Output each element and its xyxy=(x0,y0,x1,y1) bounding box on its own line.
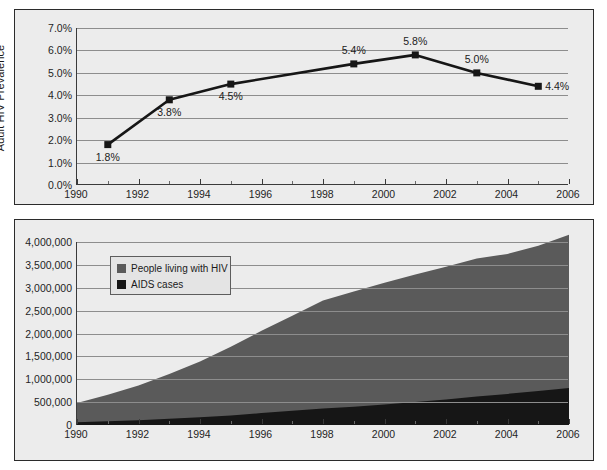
gridline xyxy=(77,356,568,357)
y-axis-labels-burden: 0500,0001,000,0001,500,0002,000,0002,500… xyxy=(6,242,72,425)
legend-swatch-people-living-with-hiv xyxy=(117,264,126,273)
x-tick-label: 1990 xyxy=(64,429,87,440)
legend-item-people-living-with-hiv: People living with HIV xyxy=(117,261,225,276)
legend-label-people-living-with-hiv: People living with HIV xyxy=(131,263,228,274)
line-series-prevalence xyxy=(77,28,569,185)
x-tick xyxy=(569,179,570,184)
x-tick xyxy=(446,419,447,424)
gridline xyxy=(77,379,568,380)
gridline xyxy=(77,402,568,403)
x-tick-label: 2004 xyxy=(495,429,518,440)
figure-container: Adult HIV Prevalence 0.0%1.0%2.0%3.0%4.0… xyxy=(0,0,607,470)
x-tick-label: 1992 xyxy=(126,189,149,200)
y-tick-label: 3,000,000 xyxy=(25,283,72,293)
x-tick xyxy=(323,419,324,424)
x-tick xyxy=(569,419,570,424)
y-tick-label: 2,000,000 xyxy=(25,329,72,339)
y-tick-label: 2.0% xyxy=(48,135,72,145)
gridline xyxy=(77,334,568,335)
y-tick-label: 3.0% xyxy=(48,113,72,123)
x-tick-minor xyxy=(231,421,232,424)
x-tick-label: 1990 xyxy=(64,189,87,200)
x-tick-label: 2000 xyxy=(372,189,395,200)
x-tick-label: 2002 xyxy=(433,189,456,200)
x-tick-label: 1996 xyxy=(249,429,272,440)
legend-swatch-aids-cases xyxy=(117,280,126,289)
x-tick xyxy=(139,419,140,424)
x-tick-minor xyxy=(108,421,109,424)
data-point-label: 4.4% xyxy=(545,81,569,92)
x-tick xyxy=(385,419,386,424)
x-tick xyxy=(262,419,263,424)
x-tick-minor xyxy=(169,421,170,424)
x-tick xyxy=(508,419,509,424)
gridline xyxy=(77,311,568,312)
chart-legend: People living with HIV AIDS cases xyxy=(110,256,231,295)
y-tick-label: 4,000,000 xyxy=(25,237,72,247)
x-tick-label: 2004 xyxy=(495,189,518,200)
x-tick-minor xyxy=(292,421,293,424)
x-tick-label: 2006 xyxy=(556,429,579,440)
y-axis-labels-prevalence: 0.0%1.0%2.0%3.0%4.0%5.0%6.0%7.0% xyxy=(14,0,72,196)
x-tick-minor xyxy=(415,421,416,424)
x-tick xyxy=(200,419,201,424)
y-tick-label: 500,000 xyxy=(34,397,72,407)
x-tick-label: 2002 xyxy=(433,429,456,440)
data-point-label: 1.8% xyxy=(96,152,120,163)
legend-item-aids-cases: AIDS cases xyxy=(117,277,225,292)
y-tick-label: 1.0% xyxy=(48,158,72,168)
x-tick-label: 2006 xyxy=(556,189,579,200)
x-tick-label: 1992 xyxy=(126,429,149,440)
data-point-label: 5.4% xyxy=(342,45,366,56)
y-tick-label: 4.0% xyxy=(48,90,72,100)
legend-label-aids-cases: AIDS cases xyxy=(131,279,183,290)
x-tick-label: 1996 xyxy=(249,189,272,200)
x-tick xyxy=(77,419,78,424)
y-tick-label: 1,000,000 xyxy=(25,374,72,384)
x-tick-label: 1998 xyxy=(310,189,333,200)
x-tick-minor xyxy=(354,421,355,424)
x-tick-minor xyxy=(477,421,478,424)
y-tick-label: 6.0% xyxy=(48,45,72,55)
y-axis-title-prevalence: Adult HIV Prevalence xyxy=(0,18,8,178)
x-tick-label: 1994 xyxy=(187,189,210,200)
x-tick-label: 2000 xyxy=(372,429,395,440)
data-point-label: 4.5% xyxy=(219,91,243,102)
data-point-label: 3.8% xyxy=(157,107,181,118)
data-point-label: 5.8% xyxy=(403,36,427,47)
x-tick-label: 1998 xyxy=(310,429,333,440)
x-axis-labels-prevalence: 199019921994199619982000200220042006 xyxy=(76,189,568,203)
x-tick-label: 1994 xyxy=(187,429,210,440)
plot-area-prevalence: 1.8%3.8%4.5%5.4%5.8%5.0%4.4% xyxy=(76,28,568,185)
x-axis-labels-burden: 199019921994199619982000200220042006 xyxy=(76,429,568,443)
y-tick-label: 7.0% xyxy=(48,23,72,33)
data-point-label: 5.0% xyxy=(465,54,489,65)
gridline xyxy=(77,242,568,243)
y-tick-label: 3,500,000 xyxy=(25,260,72,270)
y-tick-label: 5.0% xyxy=(48,68,72,78)
x-tick-minor xyxy=(538,421,539,424)
y-tick-label: 2,500,000 xyxy=(25,306,72,316)
y-tick-label: 1,500,000 xyxy=(25,351,72,361)
